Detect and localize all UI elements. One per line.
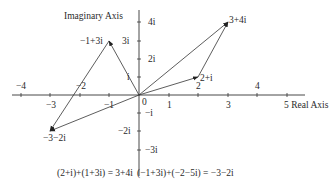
x-tick-label-4: 4 (255, 81, 260, 91)
x-tick-label-m3: −3 (46, 100, 56, 110)
point-label-2pi: 2+i (200, 73, 213, 83)
y-tick-label-m3i: −3i (145, 145, 158, 155)
point-label-m1p3i: −1+3i (80, 36, 103, 46)
equation-1: (2+i)+(1+3i) = 3+4i (57, 168, 133, 179)
y-tick-label-2i: 2i (148, 54, 156, 64)
y-tick-label-mi: −i (145, 108, 153, 118)
y-tick-label-m2i: −2i (118, 126, 131, 136)
x-axis-label: 5 Real Axis (284, 100, 329, 110)
point-label-m3m2i: −3−2i (43, 133, 66, 143)
x-tick-label-3: 3 (226, 100, 231, 110)
x-tick-label-m1: −1 (104, 100, 114, 110)
y-tick-label-i: i (127, 72, 130, 82)
vector-origin-to-2pi (139, 77, 198, 95)
vector-origin-to-m1p3i (109, 41, 139, 95)
complex-plane-diagram: Imaginary Axis 5 Real Axis −4 −2 2 4 −3 … (0, 0, 336, 190)
x-tick-label-m4: −4 (16, 81, 26, 91)
equation-2: (−1+3i)+(−2−5i) = −3−2i (137, 168, 234, 179)
origin-label: 0 (142, 97, 147, 107)
x-tick-label-1: 1 (167, 100, 172, 110)
point-label-3p4i: 3+4i (229, 15, 247, 25)
x-tick-label-m2: −2 (76, 81, 86, 91)
y-tick-label-4i: 4i (148, 17, 156, 27)
y-axis-label: Imaginary Axis (64, 11, 123, 21)
vector-2pi-to-3p4i (198, 22, 228, 77)
y-tick-label-3i: 3i (122, 36, 130, 46)
